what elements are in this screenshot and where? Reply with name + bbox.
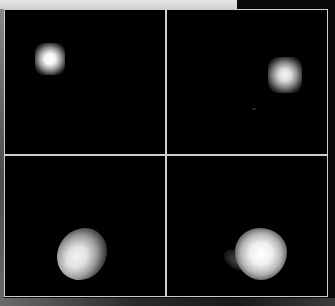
diffuse-blob xyxy=(47,218,117,290)
horizontal-divider xyxy=(5,154,327,156)
diffuse-blob xyxy=(235,228,287,280)
vertical-divider xyxy=(165,10,167,296)
panel-bottom-right xyxy=(167,156,327,296)
image-grid-frame xyxy=(4,9,328,297)
panel-top-left xyxy=(5,10,165,154)
panel-top-right xyxy=(167,10,327,154)
point-source xyxy=(35,43,65,75)
faint-speck xyxy=(252,108,256,110)
window-bottom-edge xyxy=(0,298,335,306)
title-bar-strip xyxy=(0,0,237,9)
point-source xyxy=(268,57,302,93)
panel-bottom-left xyxy=(5,156,165,296)
